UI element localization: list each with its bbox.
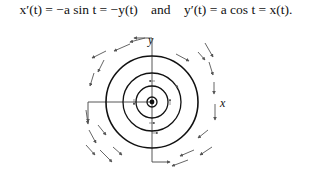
x-axis-left <box>88 102 152 122</box>
origin-dot <box>150 100 155 105</box>
y-axis-lower <box>152 102 170 162</box>
vector-field-figure <box>0 0 312 171</box>
inner-arrows <box>134 81 178 133</box>
x-axis-label: x <box>220 96 225 111</box>
y-axis-label: y <box>148 33 153 48</box>
